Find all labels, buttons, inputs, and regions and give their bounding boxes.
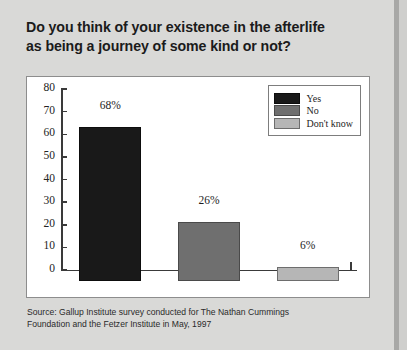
y-axis-tick [61, 156, 67, 158]
y-axis-tick-label: 70 [25, 104, 55, 116]
y-axis-tick-label: 60 [25, 126, 55, 138]
bar-no [178, 222, 240, 281]
legend-swatch-icon [274, 105, 300, 116]
page-title: Do you think of your existence in the af… [26, 18, 366, 55]
source-line-2: Foundation and the Fetzer Institute in M… [27, 318, 377, 330]
y-axis-tick-label: 10 [25, 239, 55, 251]
chart-legend: YesNoDon't know [268, 85, 361, 136]
legend-label: Don't know [306, 118, 353, 129]
bar-value-label: 68% [80, 99, 140, 111]
source-note: Source: Gallup Institute survey conducte… [27, 306, 377, 330]
y-axis-tick [61, 201, 67, 203]
y-axis-tick-label: 0 [25, 262, 55, 274]
chart-page: Do you think of your existence in the af… [0, 0, 407, 350]
bar-yes [79, 127, 141, 281]
legend-label: Yes [306, 93, 321, 104]
y-axis-tick [61, 224, 67, 226]
y-axis-tick-label: 50 [25, 149, 55, 161]
legend-swatch-icon [274, 118, 300, 129]
chart-panel: 80706050403020100 68%26%6% YesNoDon't kn… [26, 76, 370, 298]
y-axis-tick [61, 88, 67, 90]
legend-item: Don't know [274, 118, 353, 129]
title-line-2: as being a journey of some kind or not? [26, 37, 366, 56]
y-axis-tick-label: 40 [25, 172, 55, 184]
y-axis-tick [61, 269, 67, 271]
y-axis-tick [61, 111, 67, 113]
x-axis-end-tick [350, 262, 352, 270]
bar-don-t-know [277, 267, 339, 281]
y-axis-tick-label: 80 [25, 81, 55, 93]
legend-item: Yes [274, 93, 353, 104]
y-axis-tick-label: 30 [25, 194, 55, 206]
page-edge-shadow [394, 0, 399, 350]
bar-value-label: 6% [278, 239, 338, 251]
legend-swatch-icon [274, 93, 300, 104]
source-line-1: Source: Gallup Institute survey conducte… [27, 306, 377, 318]
bar-value-label: 26% [179, 194, 239, 206]
title-line-1: Do you think of your existence in the af… [26, 18, 366, 37]
y-axis-tick-label: 20 [25, 217, 55, 229]
y-axis-tick [61, 134, 67, 136]
legend-item: No [274, 105, 353, 116]
legend-label: No [306, 105, 318, 116]
y-axis-tick [61, 247, 67, 249]
y-axis-tick [61, 179, 67, 181]
page-edge-light [399, 0, 407, 350]
